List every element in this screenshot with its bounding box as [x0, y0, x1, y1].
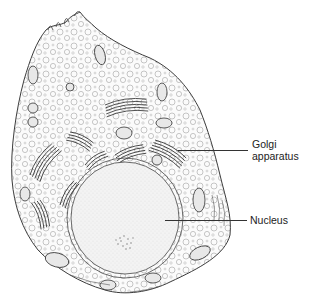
golgi-label-line2: apparatus: [252, 150, 299, 162]
golgi-leader-line: [178, 150, 248, 151]
nucleus-label: Nucleus: [250, 214, 288, 226]
golgi-label: Golgi apparatus: [252, 138, 299, 162]
golgi-label-line1: Golgi: [252, 138, 299, 150]
nucleus-leader-line: [165, 220, 247, 221]
nucleus-label-text: Nucleus: [250, 214, 288, 226]
